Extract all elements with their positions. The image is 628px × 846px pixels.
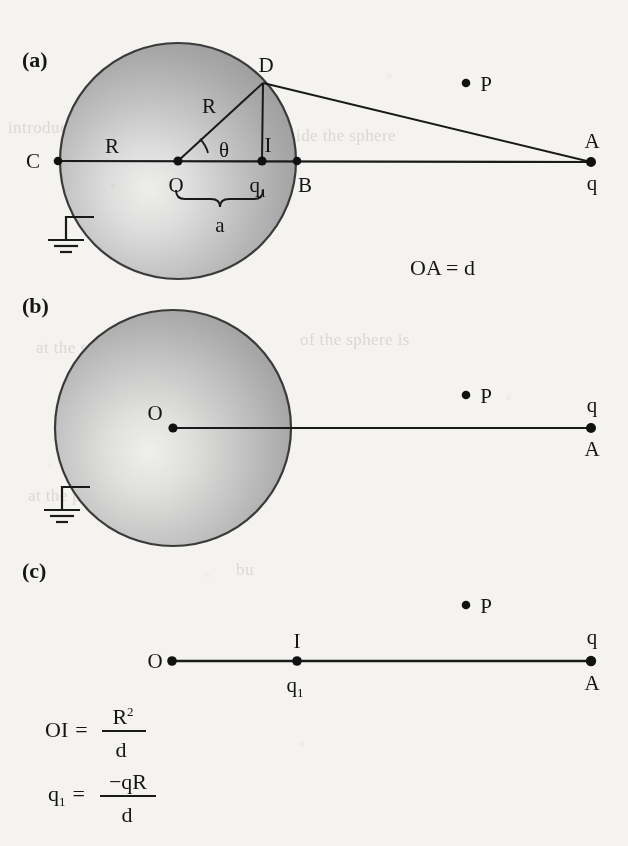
point-dot-A-a — [586, 157, 596, 167]
panel-a-label: (a) — [22, 47, 48, 72]
label-radius-OD: R — [202, 94, 216, 118]
equation-image-charge: q1= −qR d — [48, 769, 156, 827]
label-P-c: P — [480, 594, 492, 618]
panel-a: (a) — [22, 43, 600, 279]
point-dot-P-b — [462, 391, 471, 400]
label-A-a: A — [584, 129, 600, 153]
perpendicular-DI-line — [262, 83, 263, 161]
line-DA — [263, 83, 591, 162]
label-C-a: C — [26, 149, 40, 173]
equation-2-numerator: −qR — [109, 769, 147, 794]
point-dot-A-c — [586, 656, 596, 666]
panel-b-label: (b) — [22, 293, 49, 318]
point-dot-P-a — [462, 79, 471, 88]
axis-line-a — [58, 161, 591, 162]
point-dot-C-a — [54, 157, 63, 166]
label-I-a: I — [265, 133, 272, 157]
label-a: a — [215, 213, 225, 237]
label-O-c: O — [147, 649, 162, 673]
label-A-b: A — [584, 437, 600, 461]
point-dot-P-c — [462, 601, 471, 610]
point-dot-I-c — [292, 656, 302, 666]
panel-c-label: (c) — [22, 558, 46, 583]
label-theta: θ — [219, 138, 229, 162]
label-P-b: P — [480, 384, 492, 408]
point-dot-A-b — [586, 423, 596, 433]
label-q1-c: q1 — [287, 673, 304, 700]
point-dot-O-a — [173, 156, 182, 165]
label-D-a: D — [258, 53, 273, 77]
physics-figure: (a) — [0, 0, 628, 846]
label-q-b: q — [587, 393, 598, 417]
point-dot-I-a — [257, 156, 266, 165]
label-q-c: q — [587, 625, 598, 649]
equation-2-denominator: d — [122, 802, 133, 827]
point-dot-O-b — [168, 423, 177, 432]
label-I-c: I — [294, 629, 301, 653]
label-A-c: A — [584, 671, 600, 695]
label-O-a: O — [168, 173, 183, 197]
equation-1-denominator: d — [116, 737, 127, 762]
point-dot-O-c — [167, 656, 177, 666]
label-B-a: B — [298, 173, 312, 197]
panel-b: (b) O q A P — [22, 293, 600, 546]
equation-1-numerator: R2 — [112, 704, 133, 729]
label-radius-left: R — [105, 134, 119, 158]
equation-image-distance: OI= R2 d — [45, 704, 146, 762]
figure-canvas: introducedThe field outside the sphereat… — [0, 0, 628, 846]
equation-1-lhs: OI= — [45, 717, 88, 742]
label-q-a: q — [587, 171, 598, 195]
point-dot-B-a — [293, 157, 302, 166]
label-P-a: P — [480, 72, 492, 96]
annotation-OA-equals-d: OA = d — [410, 255, 475, 280]
label-O-b: O — [147, 401, 162, 425]
panel-c: (c) O I q1 q A P — [22, 558, 600, 700]
equation-2-lhs: q1= — [48, 781, 85, 809]
